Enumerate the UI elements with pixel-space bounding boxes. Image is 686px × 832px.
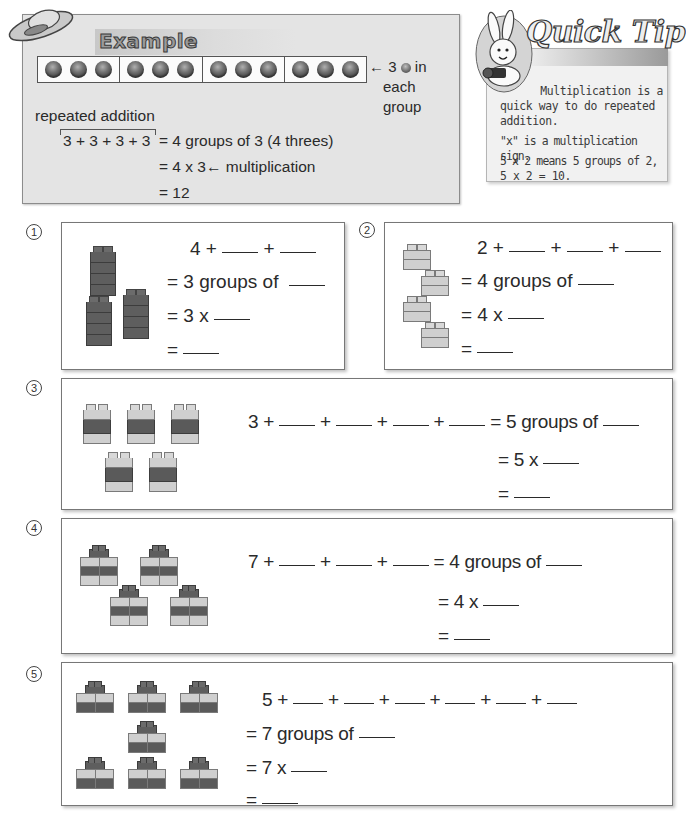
answer-blank[interactable] [603,425,639,426]
answer-blank[interactable] [336,425,372,426]
tip-line-1: Multiplication is a [500,84,665,99]
answer-blank[interactable] [625,251,661,252]
bead-icon [45,61,62,78]
answer-blank[interactable] [214,319,250,320]
block-brick [403,245,431,270]
answer-blank[interactable] [449,425,485,426]
exercise-5-times: = 7 x [246,757,327,779]
exercise-1-panel: 4 + + = 3 groups of = 3 x = [61,222,345,370]
exercise-2-groups: = 4 groups of [461,270,614,292]
exercise-1-groups: = 3 groups of [167,271,325,293]
exercise-4-result: = [438,625,490,647]
bead-group [285,57,366,82]
answer-blank[interactable] [393,425,429,426]
bead-group [203,57,285,82]
answer-blank[interactable] [477,352,513,353]
block-tower [86,297,112,346]
answer-blank[interactable] [578,284,614,285]
bead-icon [127,61,144,78]
bead-strip [37,56,367,83]
arrow-left-icon: ← [206,158,226,175]
exercise-4-addition: 7 + + + = 4 groups of [248,551,582,573]
exercise-3-panel: 3 + + + + = 5 groups of = 5 x = [61,378,673,510]
answer-blank[interactable] [279,565,315,566]
bead-icon [152,61,169,78]
answer-blank[interactable] [262,803,298,804]
block-tower [123,290,149,339]
block-tower [171,405,199,444]
exercise-number-3: 3 [26,380,42,396]
answer-blank[interactable] [445,703,475,704]
exercise-1-result: = [167,339,219,361]
block-brick [403,297,431,322]
bead-icon [342,61,359,78]
exercise-2-panel: 2 + + + = 4 groups of = 4 x = [384,222,673,370]
answer-blank[interactable] [454,639,490,640]
exercise-2-times: = 4 x [461,304,544,326]
exercise-5-addition: 5 + + + + + + [262,689,577,711]
arrow-left-icon: ← [369,58,388,75]
bead-icon [95,61,112,78]
example-line1-right: = 4 groups of 3 (4 threes) [159,132,333,150]
bead-icon [317,61,334,78]
answer-blank[interactable] [547,703,577,704]
answer-blank[interactable] [567,251,603,252]
exercise-number-4: 4 [26,520,42,536]
answer-blank[interactable] [546,565,582,566]
answer-blank[interactable] [279,425,315,426]
answer-blank[interactable] [359,737,395,738]
strip-note: ← 3 in each group [369,57,427,117]
block-tower [127,405,155,444]
answer-blank[interactable] [289,285,325,286]
answer-blank[interactable] [280,252,316,253]
bead-icon [235,61,252,78]
example-panel: Example ← 3 in each group repeated addit… [22,14,460,204]
tip-line-2: quick way to do repeated [500,99,665,114]
answer-blank[interactable] [291,771,327,772]
quick-tip-title: Quick Tip [526,14,685,49]
exercise-2-addition: 2 + + + [477,237,661,259]
bead-icon [70,61,87,78]
exercise-3-addition: 3 + + + + = 5 groups of [248,411,639,433]
exercise-number-1: 1 [26,224,42,240]
bead-icon [210,61,227,78]
tip-line-6: 5 x 2 = 10. [500,169,665,184]
exercise-3-times: = 5 x [498,449,579,471]
repeated-addition-label: repeated addition [35,107,155,125]
exercise-5-panel: 5 + + + + + + = 7 groups of = 7 x = [61,662,673,806]
answer-blank[interactable] [514,497,550,498]
answer-blank[interactable] [508,318,544,319]
exercise-number-2: 2 [359,222,375,238]
bead-icon [177,61,194,78]
answer-blank[interactable] [509,251,545,252]
example-line3: = 12 [159,184,190,202]
bead-icon [292,61,309,78]
answer-blank[interactable] [393,565,429,566]
answer-blank[interactable] [336,565,372,566]
answer-blank[interactable] [222,252,258,253]
example-line2: = 4 x 3← multiplication [159,158,315,176]
ufo-icon [6,2,76,44]
bead-icon [260,61,277,78]
exercise-2-result: = [461,338,513,360]
block-tower [90,247,116,296]
exercise-4-times: = 4 x [438,591,519,613]
bead-group [120,57,202,82]
answer-blank[interactable] [293,703,323,704]
tip-line-3: addition. [500,114,665,129]
tip-line-5: 5 x 2 means 5 groups of 2, [500,154,665,169]
answer-blank[interactable] [344,703,374,704]
exercise-5-result: = [246,789,298,811]
answer-blank[interactable] [395,703,425,704]
exercise-5-groups: = 7 groups of [246,723,395,745]
answer-blank[interactable] [483,605,519,606]
example-title-banner: Example [95,29,295,55]
exercise-number-5: 5 [26,666,42,682]
bead-icon [401,63,411,73]
example-line1-left: 3 + 3 + 3 + 3 [63,132,150,150]
answer-blank[interactable] [543,463,579,464]
answer-blank[interactable] [183,353,219,354]
answer-blank[interactable] [496,703,526,704]
example-title: Example [99,29,198,53]
block-tower [105,453,133,492]
